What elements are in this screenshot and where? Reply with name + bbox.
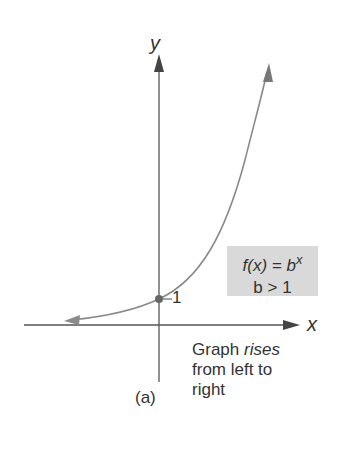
equation-exponent: x — [296, 252, 303, 267]
graph-canvas — [0, 0, 347, 459]
curve-left-arrow-icon — [64, 315, 80, 325]
y-intercept-point — [155, 295, 163, 303]
y-axis-label: y — [150, 32, 160, 55]
y-axis-arrow-icon — [154, 54, 164, 72]
description-emphasis: rises — [244, 340, 280, 359]
intercept-label: 1 — [172, 288, 181, 308]
equation-line: f(x) = bx — [227, 249, 318, 277]
description-text: Graph rises from left to right — [192, 340, 280, 400]
x-axis-arrow-icon — [283, 320, 300, 330]
figure-caption: (a) — [135, 388, 156, 408]
equation-base: f(x) = b — [243, 256, 296, 275]
condition-text: b > 1 — [253, 278, 291, 297]
curve-top-arrow-icon — [263, 63, 273, 82]
x-axis-label: x — [307, 313, 317, 336]
condition-line: b > 1 — [227, 277, 318, 299]
equation-box: f(x) = bx b > 1 — [227, 246, 318, 296]
